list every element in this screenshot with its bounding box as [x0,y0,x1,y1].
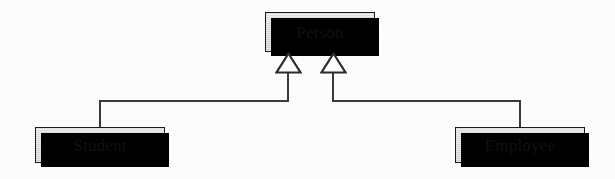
connector-employee-horizontal [332,100,521,102]
generalization-triangle-icon-employee [320,52,347,74]
connector-employee-arrow-stem [332,72,334,102]
connector-employee-vertical-riser [519,101,521,128]
connector-student-arrow-stem [287,72,289,102]
connector-student-horizontal [99,100,289,102]
uml-class-diagram-canvas: Person Student Employee [0,0,615,179]
class-name-student: Student [73,137,126,154]
class-box-employee[interactable]: Employee [455,127,585,163]
class-box-person[interactable]: Person [265,12,375,52]
generalization-triangle-icon-student [275,52,302,74]
class-name-employee: Employee [485,137,556,154]
class-box-student[interactable]: Student [35,127,165,163]
class-name-person: Person [296,24,343,41]
connector-student-vertical-riser [99,101,101,128]
